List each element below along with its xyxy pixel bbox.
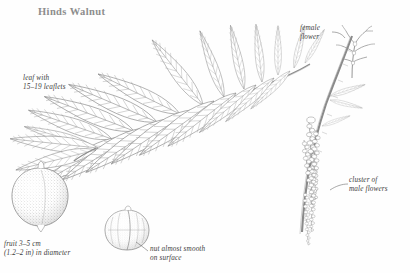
label-female-flower: female flower xyxy=(300,24,320,41)
label-fruit-size: fruit 3–5 cm (1.2–2 in) in diameter xyxy=(4,240,70,257)
label-nut-surface: nut almost smooth on surface xyxy=(150,245,205,262)
label-male-flowers: cluster of male flowers xyxy=(349,176,388,193)
botanical-illustration-plate: Hinds Walnut leaf with 15–19 leaflets fr… xyxy=(0,0,410,273)
label-leaf-with-leaflets: leaf with 15–19 leaflets xyxy=(23,74,66,91)
illustration-artwork xyxy=(0,0,410,273)
page-title: Hinds Walnut xyxy=(38,6,105,17)
